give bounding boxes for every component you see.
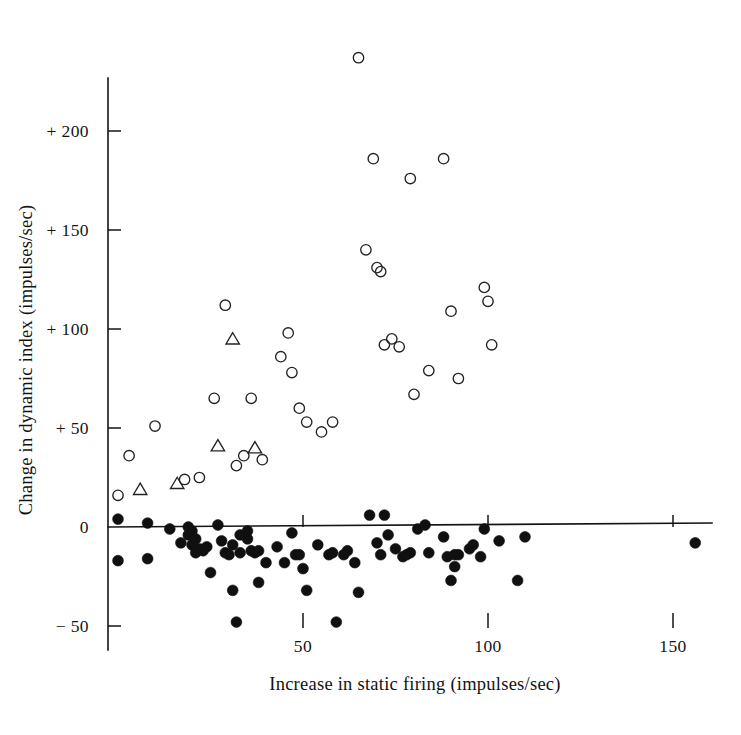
data-point-open [231, 460, 241, 470]
data-point-open [446, 306, 456, 316]
y-tick-label-50: + 50 [56, 418, 89, 438]
data-point-filled [287, 528, 298, 539]
series-open-triangle [134, 333, 262, 495]
data-point-open [483, 296, 493, 306]
data-point-filled [227, 585, 238, 596]
data-point-filled [512, 575, 523, 586]
data-point-filled [224, 549, 235, 560]
data-point-filled [479, 524, 490, 535]
data-point-filled [298, 563, 309, 574]
data-point-filled [261, 557, 272, 568]
data-point-open [327, 417, 337, 427]
data-point-open [209, 393, 219, 403]
data-point-triangle [226, 333, 239, 344]
data-point-filled [201, 541, 212, 552]
data-point-open [453, 373, 463, 383]
x-tick-label-150: 150 [659, 636, 686, 656]
x-axis-tick-labels: 50100150 [294, 636, 687, 656]
y-tick-label-0: 0 [80, 517, 89, 537]
data-point-filled [279, 557, 290, 568]
data-point-filled [449, 561, 460, 572]
data-point-open [361, 245, 371, 255]
x-axis-title: Increase in static firing (impulses/sec) [269, 674, 561, 695]
data-point-triangle [134, 483, 147, 494]
y-tick-label-200: + 200 [47, 121, 90, 141]
data-point-open [257, 454, 267, 464]
data-point-filled [475, 551, 486, 562]
data-point-open [409, 389, 419, 399]
x-tick-label-50: 50 [294, 636, 312, 656]
y-tick-label--50: − 50 [56, 616, 89, 636]
data-point-filled [113, 555, 124, 566]
scatter-figure: − 500+ 50+ 100+ 150+ 200 50100150 Increa… [0, 0, 741, 735]
data-point-open [479, 282, 489, 292]
data-point-filled [690, 537, 701, 548]
data-point-open [287, 367, 297, 377]
data-point-filled [272, 541, 283, 552]
data-point-filled [342, 545, 353, 556]
data-point-filled [468, 539, 479, 550]
data-point-open [220, 300, 230, 310]
data-point-filled [213, 520, 224, 531]
series-filled-circle [113, 510, 701, 628]
series-open-circle [113, 53, 497, 501]
data-point-open [353, 53, 363, 63]
data-point-open [124, 451, 134, 461]
y-axis-title: Change in dynamic index (impulses/sec) [16, 205, 37, 516]
data-point-open [239, 451, 249, 461]
data-point-filled [405, 547, 416, 558]
data-point-filled [446, 575, 457, 586]
data-point-open [405, 173, 415, 183]
data-point-triangle [211, 440, 224, 451]
plot-canvas: − 500+ 50+ 100+ 150+ 200 50100150 Increa… [0, 0, 741, 735]
data-point-filled [420, 520, 431, 531]
y-axis-ticks [108, 131, 121, 626]
data-point-open [113, 490, 123, 500]
x-axis-line [108, 523, 712, 527]
data-point-filled [294, 549, 305, 560]
data-point-filled [364, 510, 375, 521]
data-point-filled [353, 587, 364, 598]
data-point-triangle [248, 442, 261, 453]
data-point-filled [520, 532, 531, 543]
data-point-filled [379, 510, 390, 521]
y-axis-tick-labels: − 500+ 50+ 100+ 150+ 200 [47, 121, 90, 636]
data-point-open [394, 342, 404, 352]
data-point-filled [190, 533, 201, 544]
data-point-filled [312, 539, 323, 550]
data-point-filled [383, 530, 394, 541]
data-point-open [283, 328, 293, 338]
data-point-filled [327, 547, 338, 558]
data-point-open [294, 403, 304, 413]
data-point-triangle [171, 477, 184, 488]
data-point-open [276, 352, 286, 362]
data-point-filled [113, 514, 124, 525]
data-point-open [302, 417, 312, 427]
data-point-filled [142, 553, 153, 564]
data-point-filled [423, 547, 434, 558]
data-point-filled [375, 549, 386, 560]
data-point-filled [231, 617, 242, 628]
data-point-open [150, 421, 160, 431]
data-point-open [368, 154, 378, 164]
data-point-filled [142, 518, 153, 529]
data-point-filled [331, 617, 342, 628]
data-point-filled [438, 532, 449, 543]
data-point-filled [164, 524, 175, 535]
axes-group [108, 78, 712, 650]
data-point-filled [301, 585, 312, 596]
data-point-open [438, 154, 448, 164]
y-tick-label-150: + 150 [47, 220, 90, 240]
data-point-filled [253, 545, 264, 556]
data-point-filled [216, 535, 227, 546]
data-point-filled [242, 533, 253, 544]
data-point-filled [205, 567, 216, 578]
data-point-open [316, 427, 326, 437]
data-point-filled [349, 557, 360, 568]
y-tick-label-100: + 100 [47, 319, 90, 339]
data-point-filled [372, 537, 383, 548]
data-point-filled [453, 549, 464, 560]
data-point-open [194, 472, 204, 482]
data-point-filled [235, 547, 246, 558]
data-point-open [487, 340, 497, 350]
